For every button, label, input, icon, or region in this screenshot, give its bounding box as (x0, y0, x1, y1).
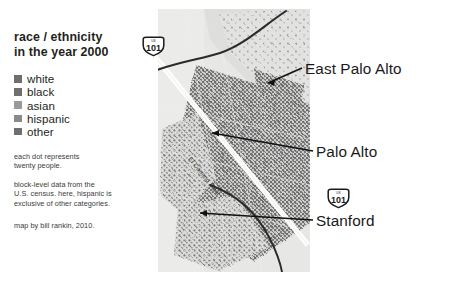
shield-nw-route-number: 101 (146, 43, 161, 53)
legend-title-line-1: race / ethnicity (14, 30, 154, 45)
legend-key-asian: asian (14, 99, 154, 112)
legend-label-other: other (27, 125, 54, 138)
map-canvas: El Camino Real (158, 9, 310, 272)
note-dot-line-1: each dot represents (14, 152, 154, 161)
legend-swatch-white (14, 75, 22, 83)
shield-nw-svg: US 101 (141, 36, 166, 57)
us-101-shield-southeast: US 101 (326, 188, 351, 209)
legend-label-asian: asian (27, 99, 55, 112)
us-101-shield-northwest: US 101 (141, 36, 166, 57)
shield-se-svg: US 101 (326, 188, 351, 209)
callout-east-palo-alto: East Palo Alto (305, 60, 402, 78)
shield-se-route-number: 101 (331, 195, 346, 205)
legend-swatch-other (14, 128, 22, 136)
note-data-source: block-level data from the U.S. census. h… (14, 180, 154, 207)
legend-key-white: white (14, 72, 154, 85)
map-credit-line: map by bill rankin, 2010. (14, 221, 154, 230)
callout-stanford: Stanford (316, 212, 375, 230)
legend-title-line-2: in the year 2000 (14, 45, 154, 60)
note-source-line-3: exclusive of other categories. (14, 199, 154, 208)
legend-title: race / ethnicity in the year 2000 (14, 30, 154, 59)
note-dot-value: each dot represents twenty people. (14, 152, 154, 170)
callout-palo-alto: Palo Alto (316, 143, 377, 161)
legend-label-black: black (27, 85, 54, 98)
map-layers: El Camino Real (158, 9, 310, 272)
legend-key-list: white black asian hispanic other (14, 72, 154, 138)
legend-label-white: white (27, 72, 54, 85)
callout-label-palo-alto: Palo Alto (316, 143, 377, 160)
legend-label-hispanic: hispanic (27, 112, 70, 125)
legend-key-other: other (14, 125, 154, 138)
note-dot-line-2: twenty people. (14, 161, 154, 170)
note-source-line-1: block-level data from the (14, 180, 154, 189)
note-source-line-2: U.S. census. here, hispanic is (14, 189, 154, 198)
legend-swatch-hispanic (14, 115, 22, 123)
legend-swatch-black (14, 88, 22, 96)
legend-key-hispanic: hispanic (14, 112, 154, 125)
legend-swatch-asian (14, 101, 22, 109)
infographic-root: race / ethnicity in the year 2000 white … (0, 0, 452, 286)
legend-panel: race / ethnicity in the year 2000 white … (14, 30, 154, 230)
map-credit: map by bill rankin, 2010. (14, 221, 154, 230)
dot-density-map: El Camino Real (158, 9, 310, 272)
callout-label-stanford: Stanford (316, 212, 375, 229)
callout-label-east-palo-alto: East Palo Alto (305, 60, 402, 77)
legend-key-black: black (14, 85, 154, 98)
